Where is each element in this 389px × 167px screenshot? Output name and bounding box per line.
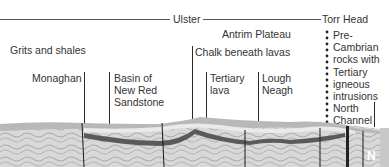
section-edge-shadow	[380, 128, 389, 167]
cross-section-graphic	[0, 0, 389, 167]
compass-north-label: N	[367, 150, 376, 162]
igneous-dyke	[346, 126, 349, 167]
